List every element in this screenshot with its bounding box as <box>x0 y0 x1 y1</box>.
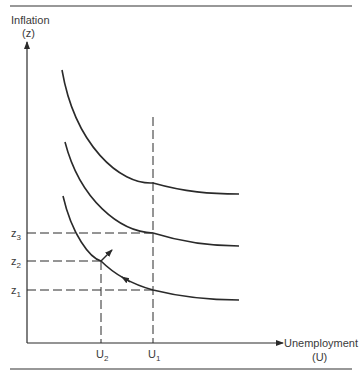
tick-z3: z3 <box>11 227 21 241</box>
movement-arrow-icon <box>122 277 130 282</box>
upper-phillips-curve <box>62 70 239 194</box>
x-axis-symbol: (U) <box>312 351 327 363</box>
y-axis-label: Inflation <box>11 14 50 26</box>
lower-phillips-curve <box>63 196 239 300</box>
x-axis-label: Unemployment <box>284 337 358 349</box>
tick-z1: z1 <box>11 284 21 298</box>
phillips-curve-diagram <box>0 0 361 374</box>
tick-u1: U1 <box>148 348 160 362</box>
tick-z2: z2 <box>11 255 21 269</box>
shift-up-arrow-icon <box>101 250 112 261</box>
y-axis-symbol: (z) <box>22 27 35 39</box>
tick-u2: U2 <box>96 348 108 362</box>
